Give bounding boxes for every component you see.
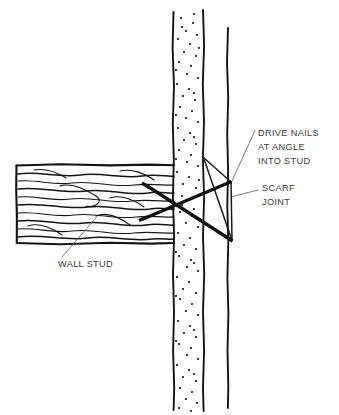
drive-nails-label-line2: AT ANGLE	[258, 142, 305, 152]
stud-right-edge	[203, 10, 204, 411]
leader-scarf-joint	[233, 190, 259, 197]
wall-stud-group	[173, 10, 229, 412]
scarf-joint-label-line2: JOINT	[262, 197, 290, 207]
wall-stud-label: WALL STUD	[58, 259, 113, 269]
board-left-end	[16, 166, 17, 244]
scarf-joint-diagram: DRIVE NAILS AT ANGLE INTO STUD SCARF JOI…	[0, 0, 339, 415]
scarf-joint-vertical	[231, 182, 232, 241]
wood-board-group	[16, 164, 174, 244]
board-bottom-edge	[17, 243, 174, 244]
drive-nails-label-line1: DRIVE NAILS	[258, 128, 319, 138]
board-top-edge	[17, 164, 175, 165]
diagram-canvas: DRIVE NAILS AT ANGLE INTO STUD SCARF JOI…	[0, 0, 339, 415]
stud-left-edge	[173, 12, 175, 410]
drive-nails-label-line3: INTO STUD	[258, 156, 311, 166]
stud-far-right-edge	[227, 28, 228, 408]
nail-head-lower	[142, 183, 150, 188]
scarf-joint-label-line1: SCARF	[262, 183, 295, 193]
wood-grain-texture	[18, 170, 174, 240]
leader-drive-nails	[232, 131, 255, 182]
nail-head-upper	[139, 217, 148, 221]
